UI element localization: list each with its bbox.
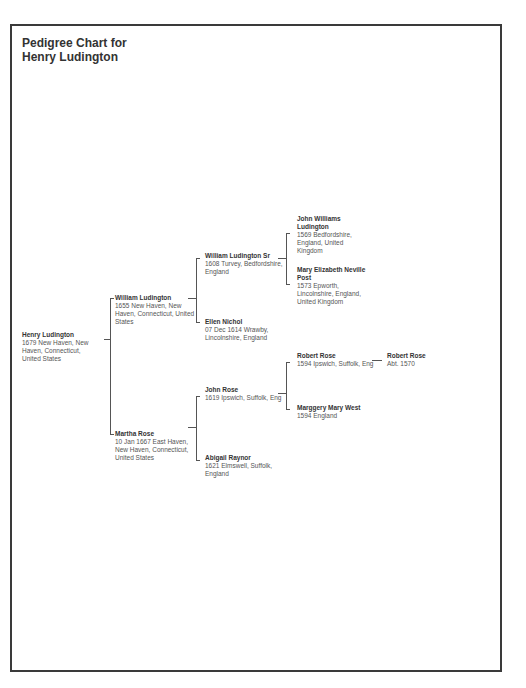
person-detail: 1569 Bedfordshire, England, United Kingd… <box>297 231 367 255</box>
bracket-tick <box>196 322 200 323</box>
connector-line <box>372 360 382 361</box>
person-william-ludington[interactable]: William Ludington 1655 New Haven, New Ha… <box>115 294 195 326</box>
bracket-tick <box>286 284 290 285</box>
person-detail: 1594 England <box>297 412 387 420</box>
bracket-tick <box>110 434 114 435</box>
bracket-line <box>196 396 197 461</box>
person-abigail-raynor[interactable]: Abigail Raynor 1621 Elmswell, Suffolk, E… <box>205 454 285 478</box>
bracket-tick <box>286 409 290 410</box>
bracket-tick <box>196 460 200 461</box>
person-name: William Ludington Sr <box>205 252 285 260</box>
person-name: Robert Rose <box>297 352 377 360</box>
person-name: Ellen Nichol <box>205 318 285 326</box>
person-detail: 1655 New Haven, New Haven, Connecticut, … <box>115 302 195 326</box>
person-name: John Rose <box>205 386 285 394</box>
bracket-tick <box>286 362 290 363</box>
bracket-line <box>286 233 287 285</box>
person-detail: 1573 Epworth, Lincolnshire, England, Uni… <box>297 282 377 306</box>
person-name: William Ludington <box>115 294 195 302</box>
person-detail: 1594 Ipswich, Suffolk, Eng <box>297 360 377 368</box>
connector-line <box>278 258 286 259</box>
person-detail: 1619 Ipswich, Suffolk, Eng <box>205 394 285 402</box>
bracket-line <box>286 362 287 410</box>
person-name: Robert Rose <box>387 352 457 360</box>
chart-title-line1: Pedigree Chart for <box>22 36 127 50</box>
person-name: Marggery Mary West <box>297 404 387 412</box>
person-martha-rose[interactable]: Martha Rose 10 Jan 1667 East Haven, New … <box>115 430 195 462</box>
connector-line <box>188 427 196 428</box>
person-detail: 1621 Elmswell, Suffolk, England <box>205 462 285 478</box>
person-name: Martha Rose <box>115 430 195 438</box>
chart-title-line2: Henry Ludington <box>22 50 127 64</box>
chart-title: Pedigree Chart for Henry Ludington <box>22 36 127 64</box>
person-detail: 10 Jan 1667 East Haven, New Haven, Conne… <box>115 438 195 462</box>
person-henry-ludington[interactable]: Henry Ludington 1679 New Haven, New Have… <box>22 331 100 363</box>
person-detail: Abt. 1570 <box>387 360 457 368</box>
person-name: Henry Ludington <box>22 331 100 339</box>
person-john-williams-ludington[interactable]: John Williams Ludington 1569 Bedfordshir… <box>297 215 367 255</box>
connector-line <box>278 393 286 394</box>
person-detail: 1679 New Haven, New Haven, Connecticut, … <box>22 339 100 363</box>
bracket-line <box>196 258 197 323</box>
connector-line <box>188 298 196 299</box>
bracket-tick <box>196 258 200 259</box>
person-ellen-nichol[interactable]: Ellen Nichol 07 Dec 1614 Wrawby, Lincoln… <box>205 318 285 342</box>
person-robert-rose-elder[interactable]: Robert Rose Abt. 1570 <box>387 352 457 368</box>
bracket-tick <box>110 298 114 299</box>
person-william-ludington-sr[interactable]: William Ludington Sr 1608 Turvey, Bedfor… <box>205 252 285 276</box>
bracket-tick <box>286 233 290 234</box>
person-mary-elizabeth-neville-post[interactable]: Mary Elizabeth Neville Post 1573 Epworth… <box>297 266 377 306</box>
person-robert-rose[interactable]: Robert Rose 1594 Ipswich, Suffolk, Eng <box>297 352 377 368</box>
person-name: Mary Elizabeth Neville Post <box>297 266 377 282</box>
person-john-rose[interactable]: John Rose 1619 Ipswich, Suffolk, Eng <box>205 386 285 402</box>
bracket-line <box>110 298 111 435</box>
person-detail: 1608 Turvey, Bedfordshire, England <box>205 260 285 276</box>
bracket-tick <box>196 396 200 397</box>
person-name: Abigail Raynor <box>205 454 285 462</box>
person-name: John Williams Ludington <box>297 215 367 231</box>
person-marggery-mary-west[interactable]: Marggery Mary West 1594 England <box>297 404 387 420</box>
person-detail: 07 Dec 1614 Wrawby, Lincolnshire, Englan… <box>205 326 285 342</box>
